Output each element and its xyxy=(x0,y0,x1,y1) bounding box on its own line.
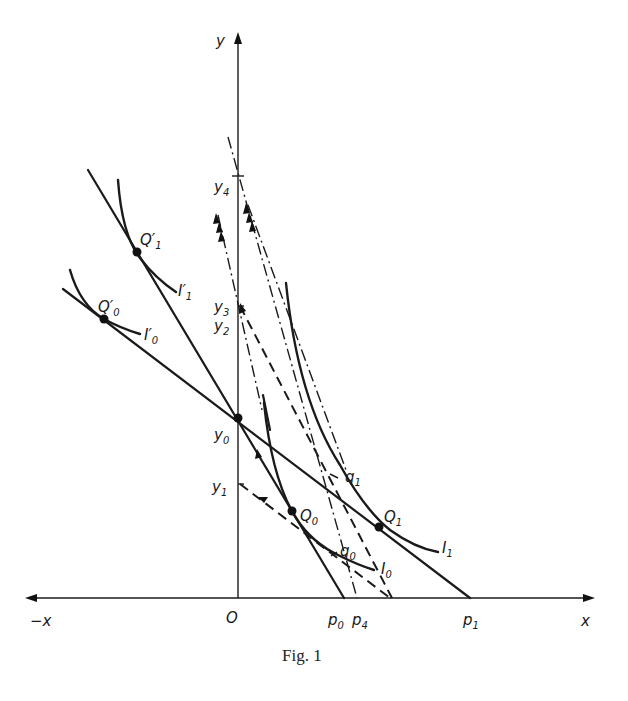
tick-q1 xyxy=(330,474,338,478)
x-axis-arrow-left-icon xyxy=(25,594,37,602)
budget-line-flat-y0-p1 xyxy=(63,289,470,598)
line-arrow-right-to-q1 xyxy=(248,205,346,470)
label-I1-prime: I′1 xyxy=(178,282,192,302)
figure-caption: Fig. 1 xyxy=(282,646,322,665)
label-p1: p1 xyxy=(462,611,479,631)
line-y2-dashed xyxy=(240,306,392,598)
label-p4: p4 xyxy=(351,611,368,631)
point-Q0 xyxy=(288,507,297,516)
point-y0 xyxy=(234,414,243,423)
line-y4-p4 xyxy=(228,137,357,598)
label-Q0-prime: Q′0 xyxy=(98,298,120,318)
label-Q0: Q0 xyxy=(300,507,318,527)
label-I0: I0 xyxy=(381,560,392,580)
x-axis-arrow-right-icon xyxy=(583,594,595,602)
label-origin: O xyxy=(226,609,238,627)
budget-lines xyxy=(63,170,470,598)
label-Q1-prime: Q′1 xyxy=(140,231,162,251)
y-axis-arrow-up-icon xyxy=(234,32,242,44)
label-y1: y1 xyxy=(211,478,227,498)
label-y2: y2 xyxy=(213,317,229,337)
economics-diagram-fig1: y x −x O y4 y3 y2 y0 y1 p0 p4 p1 Q′1 Q′0… xyxy=(0,0,628,701)
label-I1: I1 xyxy=(442,539,453,559)
label-Q1: Q1 xyxy=(384,508,402,528)
arrow-y2-icon xyxy=(239,303,246,314)
label-y0: y0 xyxy=(213,426,229,446)
label-q0: q0 xyxy=(340,542,356,562)
point-Q1 xyxy=(375,523,384,532)
label-y3: y3 xyxy=(213,298,229,318)
label-neg-x-axis: −x xyxy=(30,612,52,630)
label-y4: y4 xyxy=(213,178,229,198)
label-p0: p0 xyxy=(327,611,344,631)
label-y-axis: y xyxy=(215,32,226,50)
label-x-axis: x xyxy=(580,612,590,630)
label-q1: q1 xyxy=(345,468,361,488)
label-I0-prime: I′0 xyxy=(144,326,158,346)
